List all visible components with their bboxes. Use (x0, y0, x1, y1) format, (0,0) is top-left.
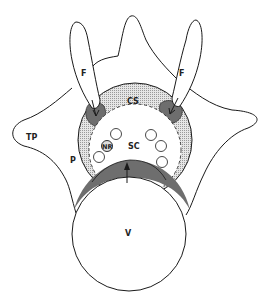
vertebra-diagram: F F TP P CS SC NR V (0, 0, 271, 305)
nerve-root-circle (157, 157, 168, 168)
nerve-root-circle (111, 129, 122, 140)
label-facet-left: F (81, 69, 86, 78)
label-pedicle: P (70, 156, 76, 165)
label-spinal-cord: SC (128, 142, 140, 151)
right-facet (172, 20, 202, 107)
label-transverse-process: TP (26, 133, 37, 142)
label-nerve-root: NR (102, 143, 112, 151)
nerve-root-circle (94, 152, 105, 163)
label-facet-right: F (179, 69, 184, 78)
nerve-root-circle (146, 130, 157, 141)
label-vertebral-body: V (125, 229, 132, 238)
left-facet (70, 22, 100, 109)
nerve-root-circle (156, 141, 167, 152)
label-canal-space: CS (127, 97, 139, 106)
